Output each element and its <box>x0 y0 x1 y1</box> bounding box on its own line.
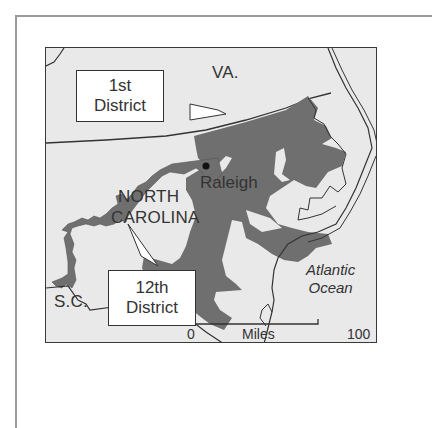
page-frame-left-rule <box>15 15 17 428</box>
callout-twelfth-district: 12th District <box>108 270 196 326</box>
scale-end: 100 <box>347 327 370 341</box>
label-virginia: VA. <box>212 64 239 81</box>
callout-twelfth-line1: 12th <box>109 278 195 298</box>
callout-first-line1: 1st <box>77 76 163 96</box>
label-atlantic-ocean: Atlantic Ocean <box>306 261 355 297</box>
label-raleigh: Raleigh <box>200 174 258 191</box>
scale-start: 0 <box>187 327 195 341</box>
coastline <box>264 48 372 343</box>
raleigh-dot <box>203 163 210 170</box>
label-carolina: CAROLINA <box>111 209 200 226</box>
page-frame-top-rule <box>15 15 432 17</box>
callout-twelfth-line2: District <box>109 298 195 318</box>
callout-first-district: 1st District <box>76 70 164 122</box>
district-map: VA. NORTH CAROLINA S.C. Raleigh Atlantic… <box>45 47 377 343</box>
label-south-carolina: S.C. <box>54 293 88 310</box>
scale-unit: Miles <box>242 327 275 341</box>
callout-first-line2: District <box>77 96 163 116</box>
ocean-line-1: Atlantic <box>306 261 355 279</box>
label-north: NORTH <box>118 188 179 205</box>
ocean-line-2: Ocean <box>306 279 355 297</box>
